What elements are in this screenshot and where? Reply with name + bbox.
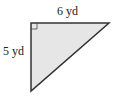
top-side-label: 6 yd	[57, 4, 78, 19]
left-side-label: 5 yd	[3, 44, 24, 59]
right-triangle	[31, 23, 109, 91]
